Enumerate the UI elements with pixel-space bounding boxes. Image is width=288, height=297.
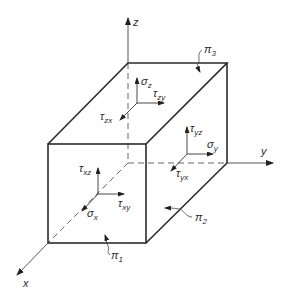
z-axis: z (128, 16, 139, 63)
y-axis: y (227, 145, 273, 163)
tau-xy-label: τxy (118, 197, 131, 212)
z-axis-label: z (132, 16, 139, 28)
sigma-x-label: σx (87, 207, 99, 222)
tau-zy-label: τzy (153, 87, 166, 102)
pi1-label: π1 (111, 249, 123, 264)
tau-xz-label: τxz (79, 162, 91, 177)
tau-yx-label: τyx (176, 167, 189, 182)
top-face-stresses: σz τzy τzx (100, 75, 166, 125)
right-face-stresses: τyz σy τyx (171, 122, 219, 182)
y-axis-label: y (260, 145, 268, 157)
plane-pi3: π3 (197, 43, 216, 72)
sigma-z-label: σz (141, 75, 152, 90)
tau-yz-label: τyz (190, 122, 202, 137)
front-face-stresses: τxz τxy σx (79, 162, 131, 222)
x-axis-label: x (22, 277, 29, 289)
pi2-label: π2 (195, 211, 207, 226)
pi3-label: π3 (204, 43, 216, 58)
stress-element-diagram: z y x σz τzy τzx τyz (0, 0, 288, 297)
tau-zx-arrow (120, 103, 137, 120)
right-face-edges (146, 63, 227, 243)
tau-zx-label: τzx (100, 110, 113, 125)
sigma-y-label: σy (207, 138, 219, 153)
x-axis: x (17, 243, 48, 289)
plane-pi1: π1 (105, 235, 123, 264)
